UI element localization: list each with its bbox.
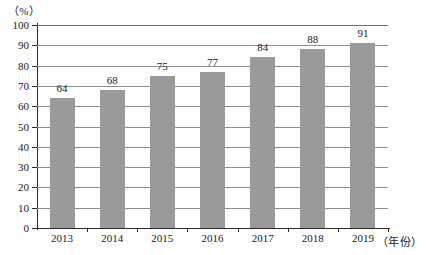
y-tick-mark xyxy=(32,167,37,168)
bar-value-label: 84 xyxy=(243,42,283,53)
x-tick-label: 2019 xyxy=(338,233,388,244)
bar-value-label: 91 xyxy=(343,28,383,39)
bar xyxy=(150,76,175,228)
bar-value-label: 88 xyxy=(293,34,333,45)
gridline xyxy=(37,25,388,26)
bar-value-label: 64 xyxy=(42,83,82,94)
y-tick-mark xyxy=(32,86,37,87)
y-tick-mark xyxy=(32,45,37,46)
y-tick-mark xyxy=(32,187,37,188)
y-tick-mark xyxy=(32,106,37,107)
y-tick-label: 100 xyxy=(3,20,29,31)
x-tick-label: 2013 xyxy=(37,233,87,244)
y-tick-label: 80 xyxy=(3,61,29,72)
y-tick-label: 0 xyxy=(3,223,29,234)
y-axis-unit-label: （%） xyxy=(8,2,40,18)
y-tick-mark xyxy=(32,147,37,148)
bar xyxy=(350,43,375,228)
x-tick-mark xyxy=(388,228,389,232)
plot-area: 0102030405060708090100 64687577848891 xyxy=(37,25,388,228)
bar xyxy=(100,90,125,228)
x-axis-line xyxy=(35,228,390,229)
y-tick-label: 40 xyxy=(3,142,29,153)
y-tick-mark xyxy=(32,66,37,67)
bar-value-label: 68 xyxy=(92,75,132,86)
x-tick-label: 2014 xyxy=(87,233,137,244)
x-tick-mark xyxy=(238,228,239,232)
x-tick-label: 2017 xyxy=(238,233,288,244)
x-tick-mark xyxy=(187,228,188,232)
bar xyxy=(250,57,275,228)
x-tick-label: 2016 xyxy=(188,233,238,244)
y-tick-mark xyxy=(32,127,37,128)
y-tick-label: 60 xyxy=(3,101,29,112)
x-tick-mark xyxy=(87,228,88,232)
x-tick-label: 2015 xyxy=(137,233,187,244)
bar xyxy=(300,49,325,228)
bar-value-label: 75 xyxy=(142,61,182,72)
y-tick-mark xyxy=(32,25,37,26)
y-tick-label: 20 xyxy=(3,182,29,193)
x-tick-label: 2018 xyxy=(288,233,338,244)
y-tick-label: 70 xyxy=(3,81,29,92)
x-tick-mark xyxy=(288,228,289,232)
x-tick-mark xyxy=(338,228,339,232)
y-tick-mark xyxy=(32,228,37,229)
y-tick-mark xyxy=(32,208,37,209)
bar-chart: （%） （年份） 0102030405060708090100 64687577… xyxy=(0,0,427,255)
bar-value-label: 77 xyxy=(193,57,233,68)
y-tick-label: 50 xyxy=(3,122,29,133)
gridline xyxy=(37,45,388,46)
y-tick-label: 30 xyxy=(3,162,29,173)
bar xyxy=(50,98,75,228)
y-tick-label: 90 xyxy=(3,40,29,51)
bar xyxy=(200,72,225,228)
y-tick-label: 10 xyxy=(3,203,29,214)
x-tick-mark xyxy=(137,228,138,232)
